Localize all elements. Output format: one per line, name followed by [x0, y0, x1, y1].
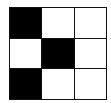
grid-cell-r1-c1[interactable]: [42, 39, 73, 69]
grid-cell-r0-c0[interactable]: [10, 8, 41, 38]
grid-cell-r1-c2[interactable]: [75, 39, 106, 69]
grid-cell-r1-c0[interactable]: [10, 39, 41, 69]
grid-cell-r2-c1[interactable]: [42, 69, 73, 99]
grid-cell-r2-c2[interactable]: [75, 69, 106, 99]
grid-cell-r0-c2[interactable]: [75, 8, 106, 38]
grid-cell-r0-c1[interactable]: [42, 8, 73, 38]
puzzle-grid: [9, 7, 107, 100]
grid-cell-r2-c0[interactable]: [10, 69, 41, 99]
